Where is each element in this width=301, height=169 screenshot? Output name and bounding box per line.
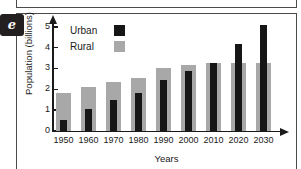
legend-label-rural: Rural bbox=[70, 41, 108, 52]
bar-urban bbox=[160, 80, 168, 131]
y-axis-tick bbox=[54, 89, 58, 90]
y-axis-tick bbox=[54, 68, 58, 69]
figure-panel: e Population (billions) Years 012345 195… bbox=[0, 0, 301, 169]
legend-item-rural: Rural bbox=[70, 40, 125, 53]
bar-urban bbox=[235, 44, 243, 131]
bar-urban bbox=[135, 93, 143, 131]
bar-urban bbox=[110, 100, 118, 131]
y-axis-tick-label: 3 bbox=[38, 62, 50, 72]
y-axis-tick-label: 5 bbox=[38, 21, 50, 31]
y-axis-tick-label: 0 bbox=[38, 125, 50, 135]
bar-urban bbox=[60, 120, 68, 131]
y-axis-tick-label: 1 bbox=[38, 104, 50, 114]
legend-swatch-rural bbox=[114, 41, 125, 52]
legend-label-urban: Urban bbox=[70, 25, 108, 36]
y-axis-tick-label: 4 bbox=[38, 42, 50, 52]
y-axis-tick-label: 2 bbox=[38, 83, 50, 93]
x-axis-tick-label: 2030 bbox=[249, 135, 279, 145]
bar-urban bbox=[85, 109, 93, 131]
x-axis-title: Years bbox=[52, 153, 281, 164]
y-axis-tick bbox=[54, 26, 58, 27]
y-axis-title: Population (billions) bbox=[23, 2, 34, 106]
y-axis-tick bbox=[54, 47, 58, 48]
plot-area: Population (billions) Years 012345 19501… bbox=[0, 0, 301, 169]
y-axis-line bbox=[52, 23, 54, 132]
panel-letter-tab: e bbox=[0, 14, 24, 36]
legend-swatch-urban bbox=[114, 25, 125, 36]
x-axis-arrow-icon bbox=[280, 128, 289, 136]
bar-urban bbox=[260, 25, 268, 131]
chart-legend: Urban Rural bbox=[70, 24, 125, 56]
bar-urban bbox=[210, 63, 218, 131]
legend-item-urban: Urban bbox=[70, 24, 125, 37]
bar-urban bbox=[185, 71, 193, 131]
